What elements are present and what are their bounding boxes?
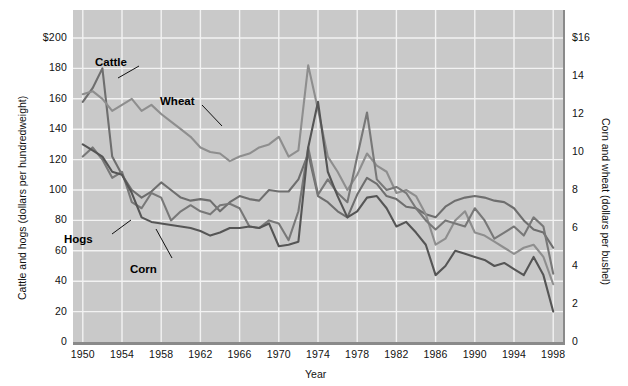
y-tick-right-14: 14 — [572, 69, 612, 81]
y-tick-left-180: 180 — [14, 61, 67, 73]
y-tick-left-200: $200 — [14, 31, 67, 43]
y-tick-left-0: 0 — [14, 335, 67, 347]
annotation-hogs: Hogs — [64, 233, 93, 245]
x-tick-1958: 1958 — [139, 348, 183, 360]
x-axis-title: Year — [305, 368, 326, 380]
annotation-corn: Corn — [130, 263, 157, 275]
x-tick-1990: 1990 — [453, 348, 497, 360]
y-tick-right-16: $16 — [572, 31, 612, 43]
x-tick-1998: 1998 — [531, 348, 575, 360]
y-tick-right-2: 2 — [572, 297, 612, 309]
x-tick-1950: 1950 — [61, 348, 105, 360]
chart-figure: 020406080100120140160180$200 02468101214… — [0, 0, 628, 386]
y-tick-right-0: 0 — [572, 335, 612, 347]
x-tick-1966: 1966 — [218, 348, 262, 360]
x-tick-1994: 1994 — [492, 348, 536, 360]
x-tick-1974: 1974 — [296, 348, 340, 360]
x-tick-1954: 1954 — [100, 348, 144, 360]
annotation-wheat: Wheat — [160, 95, 195, 107]
x-tick-1978: 1978 — [335, 348, 379, 360]
x-tick-1986: 1986 — [414, 348, 458, 360]
annotation-cattle: Cattle — [95, 56, 127, 68]
x-tick-1962: 1962 — [178, 348, 222, 360]
y-axis-right-title: Corn and wheat (dollars per bushel) — [600, 118, 612, 285]
gridlines — [73, 10, 563, 342]
x-tick-1982: 1982 — [374, 348, 418, 360]
y-tick-left-20: 20 — [14, 305, 67, 317]
x-tick-1970: 1970 — [257, 348, 301, 360]
y-axis-left-title: Cattle and hogs (dollars per hundredweig… — [16, 96, 28, 300]
